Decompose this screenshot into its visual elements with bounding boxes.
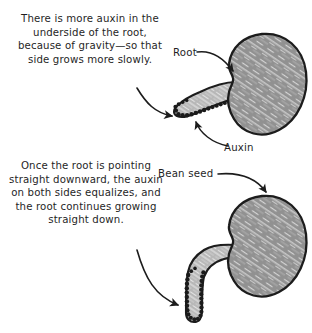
label-auxin: Auxin <box>224 142 254 154</box>
caption-lower: Once the root is pointing straight downw… <box>8 159 164 227</box>
caption-arrow-lower <box>137 250 178 305</box>
label-bean-seed: Bean seed <box>158 168 213 180</box>
label-root: Root <box>173 47 197 59</box>
bean-body-lower <box>228 196 306 297</box>
figure-root: There is more auxin in the underside of … <box>0 0 312 333</box>
bean-seed-leader-lower <box>218 174 266 192</box>
root-leader-upper <box>197 52 233 71</box>
caption-upper: There is more auxin in the underside of … <box>16 12 164 66</box>
caption-arrow-upper <box>137 88 172 116</box>
bean-body-upper <box>228 34 306 135</box>
